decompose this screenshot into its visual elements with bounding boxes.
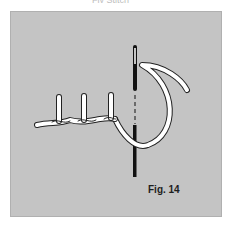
stitch-illustration [0,0,235,225]
needle-icon [133,45,137,177]
thread-icon [37,65,187,146]
figure-label: Fig. 14 [148,184,180,195]
